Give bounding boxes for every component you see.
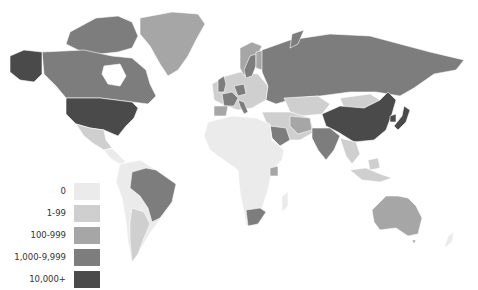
- legend-item: 1-99: [6, 202, 100, 224]
- region-canada: [42, 50, 156, 104]
- legend-swatch: [74, 227, 100, 244]
- legend-item: 10,000+: [6, 268, 100, 290]
- region-central-america: [104, 148, 126, 164]
- region-greenland: [140, 12, 205, 76]
- region-south-africa: [246, 208, 266, 226]
- legend: 0 1-99 100-999 1,000-9,999 10,000+: [6, 180, 100, 290]
- legend-swatch: [74, 205, 100, 222]
- legend-label: 1-99: [6, 208, 66, 218]
- region-tasmania: [412, 240, 416, 244]
- region-new-zealand: [444, 232, 454, 248]
- region-india: [312, 128, 340, 160]
- legend-label: 0: [6, 186, 66, 196]
- legend-item: 0: [6, 180, 100, 202]
- legend-swatch: [74, 249, 100, 266]
- legend-swatch: [74, 183, 100, 200]
- region-kenya: [270, 166, 278, 176]
- region-borneo: [368, 158, 380, 170]
- region-australia: [372, 196, 422, 236]
- legend-label: 1,000-9,999: [6, 252, 66, 262]
- legend-label: 100-999: [6, 230, 66, 240]
- region-alaska: [10, 50, 42, 82]
- region-madagascar: [282, 192, 288, 212]
- legend-item: 1,000-9,999: [6, 246, 100, 268]
- region-united-kingdom: [218, 76, 226, 92]
- region-canada-islands: [66, 16, 138, 54]
- region-japan: [394, 106, 410, 130]
- legend-label: 10,000+: [6, 274, 66, 284]
- legend-item: 100-999: [6, 224, 100, 246]
- region-spain: [214, 106, 228, 116]
- legend-swatch: [74, 271, 100, 288]
